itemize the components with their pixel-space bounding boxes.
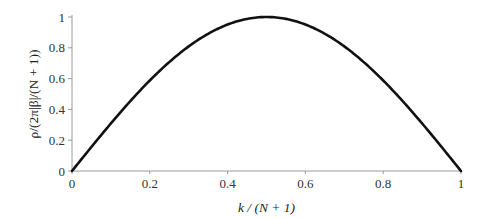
axes	[72, 15, 461, 171]
x-tick-label: 0.2	[142, 176, 158, 191]
y-tick-label: 0.8	[49, 40, 65, 55]
x-tick-label: 0.4	[219, 176, 236, 191]
x-tick-label: 0.6	[297, 176, 314, 191]
x-tick-label: 0.8	[375, 176, 391, 191]
y-ticks: 00.20.40.60.81	[49, 10, 72, 179]
chart: 00.20.40.60.81 00.20.40.60.81 k / (N + 1…	[0, 0, 484, 218]
y-tick-label: 0.6	[49, 71, 66, 86]
y-tick-label: 0.4	[49, 102, 66, 117]
x-tick-label: 0	[69, 176, 76, 191]
x-axis-label: k / (N + 1)	[238, 200, 296, 215]
y-tick-label: 0	[59, 164, 66, 179]
y-tick-label: 1	[59, 10, 66, 25]
y-axis-label: ρ/(2π|β|/(N + 1))	[26, 50, 41, 139]
series-group	[72, 17, 461, 171]
series-line	[72, 17, 461, 171]
y-tick-label: 0.2	[49, 133, 65, 148]
x-tick-label: 1	[458, 176, 465, 191]
x-ticks: 00.20.40.60.81	[69, 171, 465, 191]
